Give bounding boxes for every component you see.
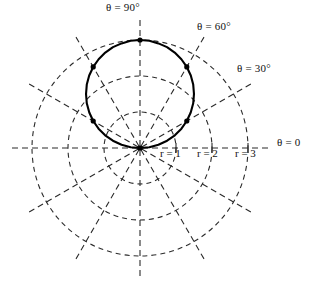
r-3-label: r = 3 bbox=[235, 147, 256, 159]
theta-90-label: θ = 90° bbox=[106, 1, 140, 13]
curve-point-90deg bbox=[137, 37, 142, 42]
curve-point-30deg bbox=[184, 118, 189, 123]
theta-60-label: θ = 60° bbox=[197, 20, 231, 32]
curve-point-150deg bbox=[91, 118, 96, 123]
theta-0-label: θ = 0 bbox=[277, 136, 300, 148]
polar-plot-canvas bbox=[0, 0, 315, 289]
pole-origin-dot bbox=[137, 145, 142, 150]
r-2-label: r = 2 bbox=[197, 147, 218, 159]
r-1-label: r = 1 bbox=[160, 147, 181, 159]
polar-plot-figure: θ = 90° θ = 60° θ = 30° θ = 0 r = 1 r = … bbox=[0, 0, 315, 289]
theta-30-label: θ = 30° bbox=[237, 62, 271, 74]
curve-point-120deg bbox=[91, 64, 96, 69]
curve-point-60deg bbox=[184, 64, 189, 69]
